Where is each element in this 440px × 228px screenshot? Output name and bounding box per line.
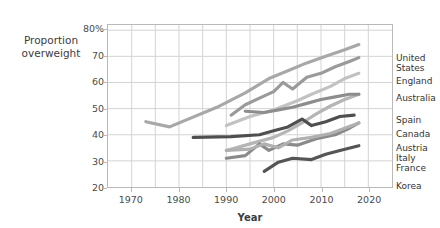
- legend-item-spain: Spain: [396, 116, 421, 126]
- x-tick-mark: [179, 188, 180, 192]
- legend-label-line2: States: [396, 64, 426, 74]
- y-tick-mark: [103, 135, 107, 136]
- plot-area: [107, 24, 393, 188]
- x-tick-mark: [274, 188, 275, 192]
- x-tick-mark: [226, 188, 227, 192]
- y-axis-tick-labels: 80%706050403020: [68, 0, 104, 228]
- x-tick-mark: [369, 188, 370, 192]
- x-tick-label-2000: 2000: [254, 194, 294, 205]
- x-tick-mark: [131, 188, 132, 192]
- x-tick-label-1970: 1970: [111, 194, 151, 205]
- y-tick-label-20: 20: [70, 182, 104, 193]
- y-tick-mark: [103, 29, 107, 30]
- y-tick-mark: [103, 188, 107, 189]
- y-tick-mark: [103, 109, 107, 110]
- y-tick-label-60: 60: [70, 76, 104, 87]
- x-axis-title: Year: [107, 212, 393, 223]
- legend-item-united-states: UnitedStates: [396, 54, 426, 73]
- y-tick-mark: [103, 162, 107, 163]
- legend-item-france: France: [396, 164, 426, 174]
- y-tick-label-40: 40: [70, 129, 104, 140]
- series-canvas: [108, 25, 392, 187]
- y-tick-mark: [103, 56, 107, 57]
- x-tick-label-1990: 1990: [206, 194, 246, 205]
- legend-item-canada: Canada: [396, 130, 430, 140]
- x-tick-mark: [322, 188, 323, 192]
- y-tick-label-50: 50: [70, 103, 104, 114]
- y-tick-label-70: 70: [70, 50, 104, 61]
- legend-item-england: England: [396, 77, 433, 87]
- y-tick-label-30: 30: [70, 156, 104, 167]
- legend-item-korea: Korea: [396, 182, 422, 192]
- x-tick-label-2020: 2020: [349, 194, 389, 205]
- legend-item-australia: Australia: [396, 94, 436, 104]
- x-tick-label-2010: 2010: [302, 194, 342, 205]
- x-tick-label-1980: 1980: [159, 194, 199, 205]
- y-tick-mark: [103, 82, 107, 83]
- y-tick-label-80: 80%: [70, 23, 104, 34]
